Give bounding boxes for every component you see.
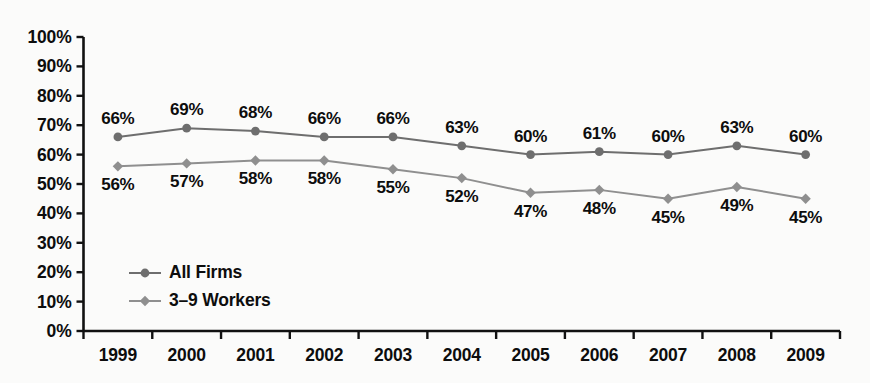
data-point-label: 66% — [308, 109, 341, 129]
y-axis-tick-label: 40% — [37, 203, 71, 224]
legend-item[interactable]: 3–9 Workers — [128, 290, 271, 311]
x-axis-tick-label: 2000 — [168, 345, 206, 366]
data-point-label: 49% — [720, 196, 753, 216]
y-axis-tick-label: 10% — [37, 291, 71, 312]
data-point-label: 45% — [789, 208, 822, 228]
legend-item-label: All Firms — [169, 262, 242, 283]
data-point-label: 66% — [376, 109, 409, 129]
y-axis-tick-label: 90% — [37, 56, 71, 77]
data-point-label: 60% — [652, 127, 685, 147]
data-point-label: 61% — [583, 124, 616, 144]
y-axis-tick-label: 80% — [37, 85, 71, 106]
legend-item-label: 3–9 Workers — [169, 290, 271, 311]
data-point-label: 57% — [170, 172, 203, 192]
y-axis-tick-label: 50% — [37, 174, 71, 195]
legend-item[interactable]: All Firms — [128, 262, 242, 283]
x-axis-tick-label: 2006 — [580, 345, 618, 366]
data-point-label: 60% — [789, 127, 822, 147]
y-axis-tick-label: 70% — [37, 115, 71, 136]
data-point-label: 45% — [652, 208, 685, 228]
x-axis-tick-label: 2003 — [374, 345, 412, 366]
data-point-label: 52% — [445, 187, 478, 207]
y-axis-tick-label: 60% — [37, 144, 71, 165]
data-point-label: 58% — [239, 169, 272, 189]
data-point-label: 58% — [308, 169, 341, 189]
data-point-label: 48% — [583, 199, 616, 219]
y-axis-tick-label: 100% — [28, 27, 72, 48]
x-axis-tick-label: 2009 — [787, 345, 825, 366]
y-axis-tick-label: 20% — [37, 262, 71, 283]
data-point-label: 56% — [101, 175, 134, 195]
y-axis-tick-label: 30% — [37, 232, 71, 253]
data-point-label: 55% — [376, 178, 409, 198]
legend-diamond-marker-icon — [128, 294, 162, 308]
data-point-label: 69% — [170, 100, 203, 120]
y-axis-tick-label: 0% — [47, 321, 72, 342]
data-point-label: 66% — [101, 109, 134, 129]
x-axis-tick-label: 2005 — [511, 345, 549, 366]
x-axis-tick-label: 2008 — [718, 345, 756, 366]
x-axis-tick-label: 1999 — [99, 345, 137, 366]
x-axis-tick-label: 2002 — [305, 345, 343, 366]
data-point-label: 47% — [514, 202, 547, 222]
data-point-label: 68% — [239, 103, 272, 123]
data-point-label: 63% — [445, 118, 478, 138]
x-axis-tick-label: 2004 — [443, 345, 481, 366]
chart-container: 100%90%80%70%60%50%40%30%20%10%0% 199920… — [0, 0, 870, 383]
data-point-label: 63% — [720, 118, 753, 138]
data-point-label: 60% — [514, 127, 547, 147]
x-axis-tick-label: 2007 — [649, 345, 687, 366]
legend-circle-marker-icon — [128, 266, 162, 280]
x-axis-tick-label: 2001 — [236, 345, 274, 366]
